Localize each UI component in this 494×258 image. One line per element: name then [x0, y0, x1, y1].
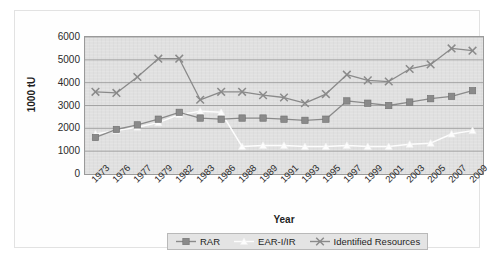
- data-point-square: [323, 116, 329, 122]
- plot-area: [84, 36, 484, 175]
- data-point-square: [113, 126, 119, 132]
- y-tick-label: 0: [35, 168, 80, 180]
- y-tick-label: 6000: [35, 31, 80, 43]
- data-point-square: [92, 134, 98, 140]
- data-point-square: [427, 95, 433, 101]
- data-point-square: [197, 115, 203, 121]
- series-rar: [92, 87, 475, 140]
- data-point-cross: [322, 90, 330, 98]
- data-point-square: [260, 115, 266, 121]
- triangle-line-marker: [233, 236, 255, 247]
- data-point-square: [183, 238, 189, 244]
- data-point-cross: [134, 73, 142, 81]
- y-tick-label: 3000: [35, 100, 80, 112]
- chart-legend: RAREAR-I/IRIdentified Resources: [167, 233, 428, 250]
- data-point-square: [176, 109, 182, 115]
- data-point-square: [218, 116, 224, 122]
- chart-figure: 1000 tU 0100020003000400050006000 197319…: [0, 0, 494, 258]
- legend-item-label: EAR-I/IR: [258, 236, 295, 247]
- legend-item-rar[interactable]: RAR: [175, 236, 220, 247]
- data-point-cross: [343, 71, 351, 79]
- data-point-square: [281, 116, 287, 122]
- plot-svg: [85, 37, 483, 174]
- square-line-marker: [175, 236, 197, 247]
- y-axis-tick-labels: 0100020003000400050006000: [35, 29, 80, 182]
- data-point-square: [448, 93, 454, 99]
- data-point-square: [344, 98, 350, 104]
- data-point-square: [386, 102, 392, 108]
- legend-item-label: Identified Resources: [334, 236, 421, 247]
- cross-line-marker: [309, 236, 331, 247]
- data-point-square: [239, 115, 245, 121]
- data-point-square: [155, 116, 161, 122]
- series-line: [95, 48, 472, 103]
- y-tick-label: 1000: [35, 145, 80, 157]
- data-point-square: [365, 100, 371, 106]
- data-point-square: [302, 117, 308, 123]
- series-identified-resources: [92, 45, 477, 107]
- data-point-cross: [196, 96, 204, 104]
- x-axis-tick-labels: 1973197619771979198219831986198819891991…: [84, 177, 484, 217]
- y-tick-label: 4000: [35, 77, 80, 89]
- legend-item-ear-i-ir[interactable]: EAR-I/IR: [233, 236, 295, 247]
- legend-item-label: RAR: [200, 236, 220, 247]
- legend-item-identified-resources[interactable]: Identified Resources: [309, 236, 421, 247]
- y-tick-label: 5000: [35, 54, 80, 66]
- data-point-square: [469, 87, 475, 93]
- y-tick-label: 2000: [35, 122, 80, 134]
- x-axis-title: Year: [84, 214, 484, 225]
- chart-frame: 1000 tU 0100020003000400050006000 197319…: [14, 10, 480, 248]
- data-point-square: [134, 122, 140, 128]
- data-point-square: [406, 99, 412, 105]
